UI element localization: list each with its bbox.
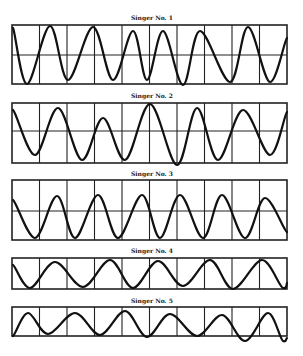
panel-singer-3: Singer No. 3	[12, 170, 287, 240]
panel-title: Singer No. 4	[131, 247, 173, 255]
panel-title: Singer No. 3	[131, 170, 173, 178]
panel-singer-4: Singer No. 4	[12, 247, 287, 289]
panel-title: Singer No. 1	[131, 14, 173, 22]
panel-title: Singer No. 5	[131, 297, 173, 305]
panel-singer-1: Singer No. 1	[12, 14, 287, 85]
panel-title: Singer No. 2	[131, 92, 173, 100]
panel-singer-5: Singer No. 5	[12, 297, 287, 341]
panel-singer-2: Singer No. 2	[12, 92, 287, 165]
singer-waveform-chart: Singer No. 1 Singer No. 2 Singer No. 3 S…	[0, 0, 303, 356]
